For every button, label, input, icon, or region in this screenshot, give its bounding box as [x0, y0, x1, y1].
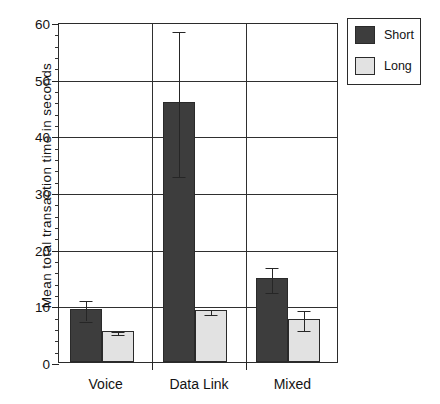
y-axis-tick-label: 50 [35, 73, 50, 88]
y-axis-tick [52, 307, 59, 308]
y-axis-minor-tick [55, 126, 59, 127]
y-axis-minor-tick [55, 285, 59, 286]
y-axis-minor-tick [55, 47, 59, 48]
error-bar-cap-top [205, 310, 218, 311]
gridline-horizontal [59, 307, 337, 308]
plot-area: 6050403020100VoiceData LinkMixed [58, 23, 338, 363]
x-axis-tick [246, 362, 247, 370]
category-separator [246, 24, 247, 362]
legend-item-long[interactable]: Long [355, 57, 412, 75]
y-axis-tick-label: 0 [42, 357, 50, 372]
y-axis-minor-tick [55, 296, 59, 297]
legend-swatch-long-icon [355, 57, 375, 75]
error-bar-cap-top [173, 32, 186, 33]
error-bar-cap-bottom [79, 322, 92, 323]
y-axis-tick-label: 20 [35, 243, 50, 258]
y-axis-tick-label: 30 [35, 187, 50, 202]
legend-item-short[interactable]: Short [355, 26, 414, 44]
y-axis-minor-tick [55, 217, 59, 218]
y-axis-minor-tick [55, 35, 59, 36]
x-axis-category-label: Voice [89, 376, 123, 392]
chart-legend: Short Long [347, 18, 421, 85]
error-bar-cap-top [79, 301, 92, 302]
y-axis-minor-tick [55, 205, 59, 206]
y-axis-minor-tick [55, 273, 59, 274]
error-bar-cap-bottom [111, 335, 124, 336]
y-axis-tick [52, 81, 59, 82]
legend-swatch-short-icon [355, 26, 375, 44]
y-axis-minor-tick [55, 228, 59, 229]
y-axis-minor-tick [55, 171, 59, 172]
y-axis-minor-tick [55, 115, 59, 116]
error-bar-cap-bottom [266, 293, 279, 294]
x-axis-category-label: Mixed [274, 376, 311, 392]
y-axis-tick-label: 60 [35, 17, 50, 32]
y-axis-minor-tick [55, 149, 59, 150]
error-bar-cap-top [111, 332, 124, 333]
y-axis-minor-tick [55, 69, 59, 70]
y-axis-minor-tick [55, 160, 59, 161]
bar-chart-figure: Mean total transaction time in seconds 6… [0, 0, 440, 404]
legend-label-short: Short [384, 28, 414, 42]
bar-long-data-link[interactable] [195, 310, 227, 362]
gridline-horizontal [59, 251, 337, 252]
error-bar-cap-bottom [173, 177, 186, 178]
y-axis-minor-tick [55, 341, 59, 342]
error-bar-line [272, 268, 273, 293]
y-axis-minor-tick [55, 353, 59, 354]
error-bar-cap-bottom [205, 315, 218, 316]
error-bar-cap-top [298, 311, 311, 312]
gridline-horizontal [59, 194, 337, 195]
y-axis-minor-tick [55, 319, 59, 320]
y-axis-tick-label: 40 [35, 130, 50, 145]
error-bar-line [304, 311, 305, 330]
y-axis-tick [52, 137, 59, 138]
y-axis-tick [52, 364, 59, 365]
error-bar-line [86, 301, 87, 321]
y-axis-minor-tick [55, 239, 59, 240]
y-axis-minor-tick [55, 262, 59, 263]
error-bar-line [179, 32, 180, 177]
error-bar-cap-top [266, 268, 279, 269]
category-separator [152, 24, 153, 362]
y-axis-minor-tick [55, 103, 59, 104]
legend-label-long: Long [384, 59, 412, 73]
y-axis-tick [52, 24, 59, 25]
y-axis-tick [52, 194, 59, 195]
error-bar-cap-bottom [298, 331, 311, 332]
gridline-horizontal [59, 81, 337, 82]
x-axis-category-label: Data Link [169, 376, 228, 392]
x-axis-tick [152, 362, 153, 370]
y-axis-tick [52, 251, 59, 252]
y-axis-minor-tick [55, 183, 59, 184]
y-axis-minor-tick [55, 92, 59, 93]
gridline-horizontal [59, 137, 337, 138]
y-axis-tick-label: 10 [35, 300, 50, 315]
y-axis-minor-tick [55, 330, 59, 331]
y-axis-minor-tick [55, 58, 59, 59]
